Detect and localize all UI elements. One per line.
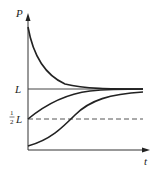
y-axis-label: P	[15, 7, 23, 19]
logistic-chart: P t L 1 2 L	[0, 0, 158, 173]
x-axis-arrow-icon	[142, 148, 150, 153]
x-axis-label: t	[144, 155, 148, 167]
y-axis-arrow-icon	[26, 13, 31, 21]
half-capacity-label: L	[15, 113, 22, 125]
half-numerator: 1	[10, 109, 14, 117]
curve-decreasing	[28, 27, 143, 89]
capacity-label: L	[14, 83, 21, 95]
half-denominator: 2	[10, 118, 14, 126]
